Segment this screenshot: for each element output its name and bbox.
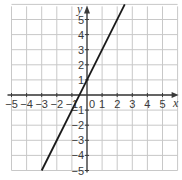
- grid: [12, 4, 178, 170]
- y-tick-label: 2: [78, 59, 84, 71]
- y-tick-label: −5: [71, 165, 84, 177]
- x-tick-label: 3: [129, 98, 135, 110]
- y-tick-label: 1: [78, 74, 84, 86]
- x-tick-label: −2: [51, 98, 64, 110]
- axes: [8, 5, 179, 172]
- y-tick-label: 3: [78, 44, 84, 56]
- x-tick-label: −5: [5, 98, 18, 110]
- x-tick-label: −3: [35, 98, 48, 110]
- y-tick-label: −4: [71, 149, 84, 161]
- x-tick-label: 2: [114, 98, 120, 110]
- x-axis-label: x: [172, 96, 179, 110]
- x-tick-label: 1: [99, 98, 105, 110]
- origin-label: 0: [89, 98, 95, 110]
- coordinate-graph: −5−4−3−2−11234554321−1−2−3−4−50 x y: [0, 0, 182, 180]
- y-tick-label: 4: [78, 29, 84, 41]
- x-tick-label: 5: [159, 98, 165, 110]
- y-axis-label: y: [76, 2, 83, 16]
- y-axis-arrow-icon: [84, 5, 90, 13]
- y-tick-label: −3: [71, 134, 84, 146]
- y-tick-label: −2: [71, 119, 84, 131]
- x-tick-label: −4: [20, 98, 33, 110]
- x-tick-label: 4: [144, 98, 150, 110]
